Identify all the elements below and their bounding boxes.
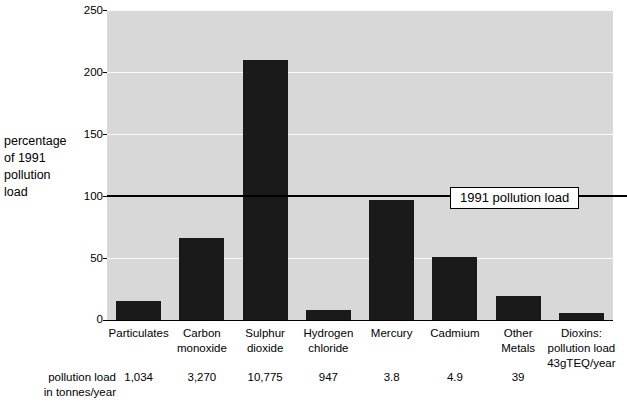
bar-dioxins [559, 313, 604, 320]
x-axis-line [107, 320, 613, 321]
footer-row-caption: pollution load in tonnes/year [20, 370, 116, 400]
gridline-250 [107, 10, 613, 11]
category-label-0: Particulates [103, 326, 174, 341]
tick-mark-50 [103, 258, 107, 259]
bar-mercury [369, 200, 414, 320]
category-label-4: Mercury [356, 326, 427, 341]
y-tick-150: 150 [3, 129, 103, 141]
bar-cadmium [432, 257, 477, 320]
gridline-200 [107, 72, 613, 73]
bar-other [496, 296, 541, 320]
footer-value-5: 4.9 [419, 370, 490, 385]
y-tick-50: 50 [3, 253, 103, 265]
category-label-7: Dioxins: pollution load 43gTEQ/year [546, 326, 617, 371]
y-tick-250: 250 [3, 5, 103, 17]
category-label-5: Cadmium [419, 326, 490, 341]
reference-line-callout: 1991 pollution load [450, 187, 579, 209]
y-tick-0: 0 [3, 314, 103, 326]
y-tick-200: 200 [3, 67, 103, 79]
y-axis-ticks: 250 200 150 100 50 0 [0, 0, 103, 405]
category-label-3: Hydrogen chloride [293, 326, 364, 356]
bar-sulphur [243, 60, 288, 320]
bar-particulates [116, 301, 161, 320]
footer-value-4: 3.8 [356, 370, 427, 385]
y-tick-100: 100 [3, 191, 103, 203]
footer-value-0: 1,034 [103, 370, 174, 385]
footer-value-6: 39 [483, 370, 554, 385]
footer-value-2: 10,775 [230, 370, 301, 385]
pollution-load-bar-chart: percentage of 1991 pollution load 250 20… [0, 0, 627, 405]
bar-carbon [179, 238, 224, 320]
category-label-6: Other Metals [483, 326, 554, 356]
footer-value-3: 947 [293, 370, 364, 385]
category-label-2: Sulphur dioxide [230, 326, 301, 356]
gridline-150 [107, 134, 613, 135]
tick-mark-150 [103, 134, 107, 135]
tick-mark-200 [103, 72, 107, 73]
tick-mark-250 [103, 10, 107, 11]
category-label-1: Carbon monoxide [166, 326, 237, 356]
footer-value-1: 3,270 [166, 370, 237, 385]
bar-hydrogen [306, 310, 351, 320]
